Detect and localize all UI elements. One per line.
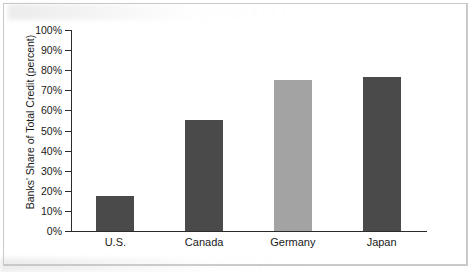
y-axis-tick-mark xyxy=(65,131,71,132)
y-axis-tick-mark xyxy=(65,30,71,31)
bar-canada xyxy=(185,120,223,231)
x-axis-line xyxy=(71,231,427,232)
y-axis-tick-label: 90% xyxy=(2,45,62,55)
y-axis-tick-label: 20% xyxy=(2,186,62,196)
y-axis-tick-label: 70% xyxy=(2,85,62,95)
y-axis-tick-label: 80% xyxy=(2,65,62,75)
y-axis-tick-label: 50% xyxy=(2,126,62,136)
y-axis-tick-label: 0% xyxy=(2,226,62,236)
y-axis-tick-mark xyxy=(65,231,71,232)
y-axis-tick-mark xyxy=(65,70,71,71)
y-axis-tick-mark xyxy=(65,211,71,212)
y-axis-tick-label: 100% xyxy=(2,25,62,35)
bar-germany xyxy=(274,80,312,231)
bar-u-s xyxy=(96,196,134,231)
y-axis-tick-label: 60% xyxy=(2,105,62,115)
chart-figure: Banks' Share of Total Credit (percent) 1… xyxy=(0,0,471,272)
y-axis-tick-label: 30% xyxy=(2,166,62,176)
y-axis-tick-mark xyxy=(65,171,71,172)
y-axis-tick-labels: 100%90%80%70%60%50%40%30%20%10%0% xyxy=(0,0,62,272)
y-axis-tick-label: 10% xyxy=(2,206,62,216)
x-axis-tick-label: Japan xyxy=(322,236,442,248)
bar-japan xyxy=(363,77,401,231)
y-axis-tick-mark xyxy=(65,191,71,192)
y-axis-tick-mark xyxy=(65,110,71,111)
y-axis-tick-mark xyxy=(65,50,71,51)
y-axis-tick-label: 40% xyxy=(2,146,62,156)
y-axis-tick-mark xyxy=(65,90,71,91)
plot-area xyxy=(71,30,426,231)
y-axis-tick-mark xyxy=(65,151,71,152)
